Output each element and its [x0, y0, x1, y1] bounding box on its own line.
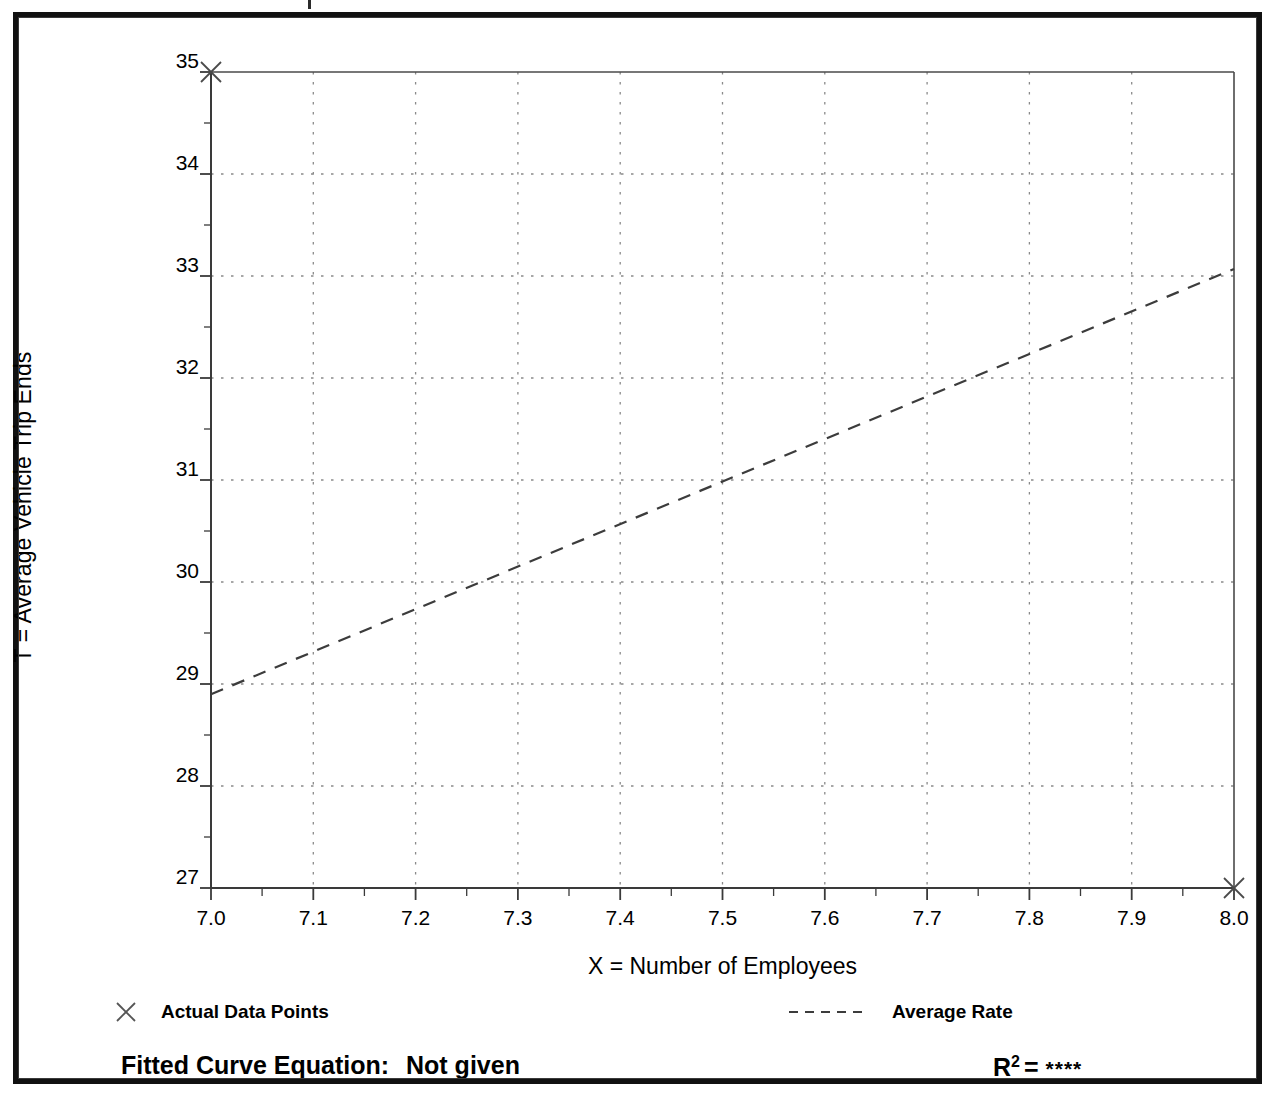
y-tick-label: 35	[139, 50, 199, 71]
y-tick-label: 34	[139, 152, 199, 173]
dashed-line-icon	[788, 1006, 870, 1018]
x-tick-label: 7.4	[585, 907, 655, 928]
x-tick-label: 7.7	[892, 907, 962, 928]
y-axis-title: T = Average Vehicle Trip Ends	[10, 317, 37, 697]
x-tick-label: 8.0	[1199, 907, 1269, 928]
x-tick-label: 7.8	[994, 907, 1064, 928]
r-squared-equals: =	[1024, 1053, 1039, 1081]
x-axis-title: X = Number of Employees	[211, 953, 1234, 980]
x-axis-ticks	[211, 888, 1234, 900]
x-tick-label: 7.1	[278, 907, 348, 928]
r-squared-block: R2=****	[993, 1053, 1082, 1082]
y-tick-label: 28	[139, 764, 199, 785]
chart-canvas	[211, 72, 1234, 888]
y-tick-label: 29	[139, 662, 199, 683]
chart-legend: Actual Data Points Average Rate	[18, 997, 1267, 1041]
x-tick-label: 7.2	[381, 907, 451, 928]
legend-label-average-rate: Average Rate	[892, 1001, 1013, 1023]
y-tick-label: 31	[139, 458, 199, 479]
x-tick-label: 7.9	[1097, 907, 1167, 928]
r-squared-symbol: R	[993, 1053, 1011, 1081]
y-tick-label: 30	[139, 560, 199, 581]
fitted-curve-equation-label: Fitted Curve Equation:	[121, 1051, 389, 1079]
chart-footer: Fitted Curve Equation: Not given R2=****	[18, 1047, 1267, 1095]
fitted-curve-equation: Fitted Curve Equation: Not given	[121, 1051, 520, 1080]
x-tick-label: 7.3	[483, 907, 553, 928]
r-squared-value: ****	[1046, 1057, 1083, 1080]
r-squared-exponent: 2	[1011, 1053, 1020, 1070]
legend-label-actual-data-points: Actual Data Points	[161, 1001, 329, 1023]
y-tick-label: 27	[139, 866, 199, 887]
legend-item-actual-data-points: Actual Data Points	[113, 997, 329, 1027]
legend-item-average-rate: Average Rate	[788, 997, 1013, 1027]
y-axis-tick-labels: 35 34 33 32 31 30 29 28 27	[131, 17, 199, 1017]
x-tick-label: 7.5	[688, 907, 758, 928]
figure-frame: T = Average Vehicle Trip Ends 35 34 33 3…	[13, 12, 1262, 1084]
plot-area	[211, 72, 1234, 888]
x-tick-label: 7.6	[790, 907, 860, 928]
x-axis-tick-labels: 7.0 7.1 7.2 7.3 7.4 7.5 7.6 7.7 7.8 7.9 …	[211, 907, 1234, 941]
x-marker-icon	[113, 999, 139, 1025]
y-axis-ticks	[200, 72, 211, 888]
x-tick-label: 7.0	[176, 907, 246, 928]
scan-artifact	[308, 0, 311, 9]
fitted-curve-equation-value: Not given	[406, 1051, 520, 1079]
y-tick-label: 32	[139, 356, 199, 377]
y-tick-label: 33	[139, 254, 199, 275]
